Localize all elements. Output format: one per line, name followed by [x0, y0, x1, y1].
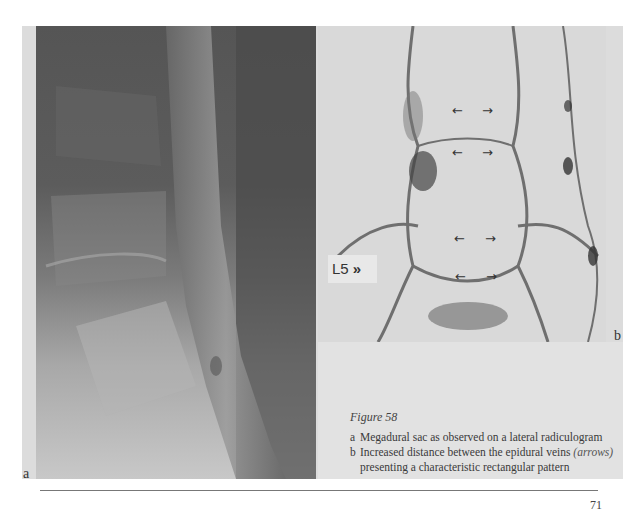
arrow-right-icon: →	[482, 104, 493, 117]
caption-italic-text: (arrows)	[573, 446, 613, 458]
caption-marker: b	[350, 446, 360, 458]
caption-marker: a	[350, 431, 360, 443]
caption-line-b-cont: presenting a characteristic rectangular …	[350, 461, 569, 473]
arrow-left-icon: ←	[452, 146, 463, 159]
caption-text: presenting a characteristic rectangular …	[360, 461, 569, 473]
arrow-left-icon: ←	[452, 104, 463, 117]
page-number: 71	[590, 498, 602, 513]
caption-line-a: aMegadural sac as observed on a lateral …	[350, 431, 602, 443]
vertebra-label: L5 »	[328, 255, 377, 283]
venogram-panel-b	[318, 26, 606, 342]
footer-rule	[40, 490, 598, 491]
radiograph-panel-a	[36, 26, 316, 479]
panel-label-a: a	[23, 466, 29, 482]
arrow-right-icon: →	[482, 146, 493, 159]
caption-text: Increased distance between the epidural …	[360, 446, 573, 458]
venogram-b-image	[318, 26, 606, 342]
caption-text: Megadural sac as observed on a lateral r…	[360, 431, 602, 443]
vertebra-label-text: L5	[332, 260, 349, 277]
arrow-right-icon: →	[486, 270, 497, 283]
arrow-right-icon: →	[485, 232, 496, 245]
caption-line-b: bIncreased distance between the epidural…	[350, 446, 613, 458]
figure-title: Figure 58	[350, 410, 397, 425]
double-chevron-icon: »	[353, 260, 361, 277]
arrow-left-icon: ←	[455, 270, 466, 283]
radiograph-a-image	[36, 26, 316, 479]
panel-label-b: b	[614, 328, 621, 344]
arrow-left-icon: ←	[454, 232, 465, 245]
